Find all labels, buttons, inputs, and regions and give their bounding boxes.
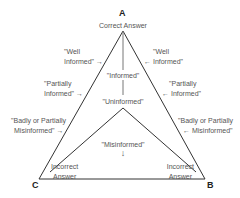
left-well-informed-line1: "Well: [64, 47, 80, 56]
right-well-informed-line1: "Well: [153, 47, 169, 56]
vertex-a-label: Correct Answer: [90, 21, 156, 30]
vertex-b-label-line2: Answer: [160, 172, 192, 181]
left-badly-misinformed-line2: Misinformed" →: [14, 126, 64, 135]
uninformed-label: "Uninformed": [90, 97, 156, 106]
left-badly-misinformed-line1: "Badly or Partially: [11, 116, 66, 125]
vertex-b-label-line1: Incorrect: [160, 162, 194, 171]
left-partially-informed-line2: Informed" →: [44, 89, 83, 98]
right-partially-informed-line2: ← Informed": [162, 89, 201, 98]
vertex-c-letter: C: [32, 180, 39, 190]
right-well-informed-line2: ← Informed": [144, 57, 183, 66]
vertex-a-letter: A: [119, 8, 126, 18]
left-partially-informed-line1: "Partially: [44, 79, 71, 88]
informed-label: "Informed": [93, 71, 153, 80]
right-partially-informed-line1: "Partially: [169, 79, 196, 88]
vertex-b-letter: B: [207, 180, 214, 190]
misinformed-down-arrow-icon: ↓: [113, 149, 133, 158]
right-badly-misinformed-line2: ← Misinformed": [183, 126, 233, 135]
knowledge-triangle-diagram: A Correct Answer C Incorrect Answer B In…: [0, 0, 240, 198]
vertex-c-label-line2: Answer: [53, 172, 76, 181]
left-well-informed-line2: Informed" →: [64, 57, 103, 66]
vertex-c-label-line1: Incorrect: [51, 162, 78, 171]
right-badly-misinformed-line1: "Badly or Partially: [178, 116, 233, 125]
